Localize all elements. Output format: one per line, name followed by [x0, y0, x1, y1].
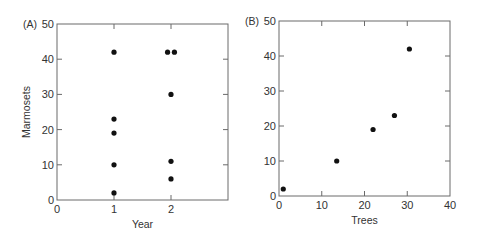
y-tick-label: 30	[42, 88, 54, 100]
data-point	[111, 162, 116, 167]
y-axis-label: Marmosets	[20, 86, 32, 138]
data-point	[111, 50, 116, 55]
y-tick-label: 50	[42, 18, 54, 30]
data-point	[168, 176, 173, 181]
y-tick-label: 30	[264, 85, 276, 97]
data-point	[172, 50, 177, 55]
data-point	[111, 131, 116, 136]
x-tick-label: 20	[358, 199, 370, 211]
scatter-panel-b: 01020304050010203040Trees(B)	[245, 15, 456, 226]
plot-frame	[279, 21, 450, 196]
x-tick-label: 1	[111, 203, 117, 215]
data-point	[165, 50, 170, 55]
data-point	[392, 113, 397, 118]
data-point	[111, 190, 116, 195]
x-axis-label: Year	[132, 218, 154, 230]
data-point	[168, 92, 173, 97]
data-point	[111, 116, 116, 121]
x-tick-label: 30	[401, 199, 413, 211]
data-point	[407, 46, 412, 51]
y-tick-label: 40	[264, 50, 276, 62]
data-point	[168, 159, 173, 164]
x-axis-label: Trees	[351, 214, 377, 226]
data-point	[370, 127, 375, 132]
panel-label: (A)	[23, 18, 37, 30]
data-point	[281, 186, 286, 191]
y-tick-label: 50	[264, 15, 276, 27]
scatter-panel-a: 01020304050012YearMarmosets(A)	[20, 18, 228, 230]
panel-label: (B)	[245, 15, 259, 27]
x-tick-label: 2	[168, 203, 174, 215]
y-tick-label: 10	[42, 159, 54, 171]
x-tick-label: 40	[444, 199, 456, 211]
y-tick-label: 40	[42, 53, 54, 65]
y-tick-label: 10	[264, 155, 276, 167]
x-tick-label: 0	[54, 203, 60, 215]
x-tick-label: 0	[276, 199, 282, 211]
data-point	[334, 158, 339, 163]
x-tick-label: 10	[316, 199, 328, 211]
chart-canvas: 01020304050012YearMarmosets(A)0102030405…	[0, 0, 480, 240]
plot-frame	[57, 24, 228, 200]
y-tick-label: 20	[264, 120, 276, 132]
y-tick-label: 20	[42, 124, 54, 136]
